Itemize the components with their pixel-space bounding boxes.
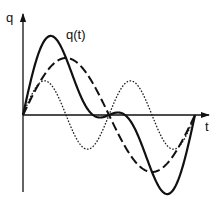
x-axis-label: t: [205, 119, 209, 134]
curve-label-q-of-t: q(t): [66, 27, 86, 42]
y-axis-label: q: [6, 10, 13, 25]
fourier-harmonics-chart: q t q(t): [0, 0, 219, 203]
